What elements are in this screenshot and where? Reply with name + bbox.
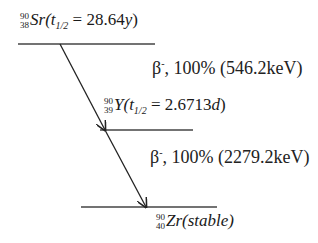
nuclide-label-sr90: 9038Sr(t1/2 = 28.64y) bbox=[20, 10, 138, 31]
close-paren: ) bbox=[132, 10, 138, 29]
decay-arrow-sr-to-y bbox=[60, 44, 105, 130]
nuclide-label-y90: 9039Y(t1/2 = 2.6713d) bbox=[104, 95, 226, 116]
transition-text: , 100% (2279.2keV) bbox=[163, 147, 310, 167]
stability-state: (stable) bbox=[182, 211, 234, 230]
halflife-prefix: (t bbox=[123, 95, 133, 114]
atomic-number: 39 bbox=[104, 106, 113, 115]
isotope-numbers: 9040 bbox=[156, 213, 165, 231]
transition-label-2: β-, 100% (2279.2keV) bbox=[150, 147, 310, 168]
decay-arrow-y-to-zr bbox=[105, 130, 146, 207]
transition-label-1: β-, 100% (546.2keV) bbox=[152, 58, 303, 79]
beta-symbol: β bbox=[152, 58, 161, 78]
halflife-sub: 1/2 bbox=[134, 105, 147, 116]
isotope-numbers: 9039 bbox=[104, 97, 113, 115]
halflife-unit: d bbox=[211, 95, 220, 114]
halflife-prefix: (t bbox=[45, 10, 55, 29]
element-symbol: Sr bbox=[30, 10, 45, 29]
beta-symbol: β bbox=[150, 147, 159, 167]
nuclide-label-zr90: 9040Zr(stable) bbox=[156, 211, 234, 231]
isotope-numbers: 9038 bbox=[20, 12, 29, 30]
atomic-number: 40 bbox=[156, 222, 165, 231]
atomic-number: 38 bbox=[20, 21, 29, 30]
element-symbol: Zr bbox=[166, 211, 182, 230]
close-paren: ) bbox=[220, 95, 226, 114]
transition-text: , 100% (546.2keV) bbox=[165, 58, 303, 78]
halflife-value: = 2.6713 bbox=[147, 95, 212, 114]
halflife-value: = 28.64 bbox=[68, 10, 124, 29]
decay-scheme-lines bbox=[0, 0, 318, 243]
halflife-sub: 1/2 bbox=[56, 20, 69, 31]
